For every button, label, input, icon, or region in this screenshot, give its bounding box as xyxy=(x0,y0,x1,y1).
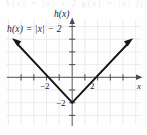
x-axis-label: x xyxy=(137,81,141,91)
equation-label: h(x) = |x| − 2 xyxy=(7,24,62,34)
y-axis-label: h(x) xyxy=(54,9,69,19)
coordinate-plane xyxy=(0,0,147,135)
x-tick-label-negative-two: −2 xyxy=(40,81,50,91)
y-tick-label-negative-two: −2 xyxy=(56,98,66,108)
x-tick-label-positive-two: 2 xyxy=(90,81,95,91)
y-axis-arrow xyxy=(70,18,75,25)
x-axis-arrow xyxy=(136,75,143,80)
graph-figure: h(x) = |x| + 2 g(x) = |x| f(x) = |x| xyxy=(0,0,147,135)
grid-lines xyxy=(6,19,141,125)
